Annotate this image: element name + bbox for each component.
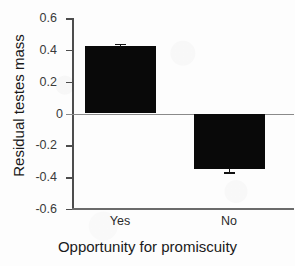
bar-yes [85, 46, 156, 114]
x-tick-label-no: No [221, 214, 237, 228]
y-tick-label-3: 0 [56, 107, 63, 121]
y-tick-label-4: -0.2 [35, 138, 57, 152]
chart-figure: Residual testes mass 0.6 0.4 0.2 0 -0.2 … [0, 0, 295, 266]
x-axis-line [72, 208, 294, 210]
y-tick-label-5: -0.4 [35, 170, 57, 184]
y-tick-label-0: 0.6 [40, 11, 57, 25]
y-tick-label-6: -0.6 [35, 202, 57, 216]
y-tick-label-1: 0.4 [40, 43, 57, 57]
plot-area: 0.6 0.4 0.2 0 -0.2 -0.4 -0.6 Yes No [72, 18, 274, 209]
y-tick-label-2: 0.2 [40, 75, 57, 89]
y-tick-2: 0.2 [66, 82, 72, 84]
y-tick-6: -0.6 [66, 209, 72, 211]
error-cap-no-bottom [224, 172, 235, 174]
y-tick-4: -0.2 [66, 145, 72, 147]
y-axis-title: Residual testes mass [10, 6, 27, 206]
y-tick-5: -0.4 [66, 177, 72, 179]
error-cap-yes-top [115, 44, 126, 46]
x-axis-title: Opportunity for promiscuity [0, 238, 295, 255]
x-tick-label-yes: Yes [110, 214, 130, 228]
y-tick-1: 0.4 [66, 50, 72, 52]
y-tick-0: 0.6 [66, 18, 72, 20]
bar-no [194, 114, 265, 170]
